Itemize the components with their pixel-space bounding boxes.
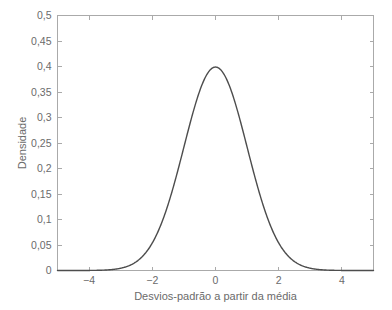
x-axis-tick-label: 4 — [339, 274, 345, 286]
x-axis-tick-label: 2 — [276, 274, 282, 286]
chart-figure: 00,050,10,150,20,250,30,350,40,450,5 −4−… — [0, 0, 392, 310]
x-axis-tick-label: −4 — [83, 274, 95, 286]
x-axis-title: Desvios-padrão a partir da média — [134, 290, 298, 302]
y-axis-tick-label: 0,2 — [37, 162, 52, 174]
y-axis-tick-label: 0 — [46, 264, 52, 276]
y-axis-tick-label: 0,15 — [31, 188, 52, 200]
y-axis-tick-label: 0,5 — [37, 9, 52, 21]
y-axis-tick-label: 0,35 — [31, 86, 52, 98]
x-axis-tick-label: 0 — [213, 274, 219, 286]
y-axis-tick-label: 0,45 — [31, 35, 52, 47]
y-axis-tick-label: 0,4 — [37, 60, 52, 72]
y-axis-tick-label: 0,1 — [37, 213, 52, 225]
chart-background — [0, 0, 392, 310]
y-axis-tick-label: 0,05 — [31, 239, 52, 251]
y-axis-title: Densidade — [16, 117, 28, 170]
y-axis-tick-label: 0,3 — [37, 111, 52, 123]
normal-distribution-chart: 00,050,10,150,20,250,30,350,40,450,5 −4−… — [0, 0, 392, 310]
x-axis-tick-label: −2 — [146, 274, 158, 286]
y-axis-tick-label: 0,25 — [31, 137, 52, 149]
